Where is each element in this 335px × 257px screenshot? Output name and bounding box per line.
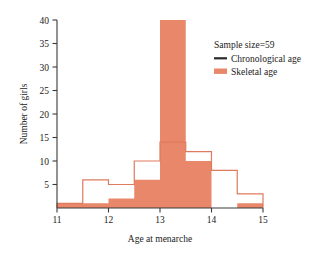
x-tick-label: 13	[155, 215, 165, 225]
histogram-figure: 40 35 30 25 20 15 10 5 11 12 13 14 15 Ag…	[0, 0, 335, 257]
y-tick-label: 30	[40, 63, 50, 73]
chart-canvas: 40 35 30 25 20 15 10 5 11 12 13 14 15 Ag…	[0, 0, 335, 257]
y-tick-label: 5	[44, 180, 49, 190]
chart-legend: Sample size=59 Chronological age Skeleta…	[214, 40, 301, 77]
y-tick-label: 25	[40, 86, 50, 96]
x-axis-ticks	[57, 208, 263, 213]
y-axis-ticks	[53, 20, 58, 185]
y-tick-label: 40	[40, 16, 50, 26]
legend-sample-size: Sample size=59	[214, 40, 275, 50]
x-axis-tick-labels: 11 12 13 14 15	[52, 215, 268, 225]
legend-label-skeletal-age: Skeletal age	[231, 67, 277, 77]
x-tick-label: 14	[207, 215, 217, 225]
y-tick-label: 20	[40, 110, 50, 120]
y-axis-title: Number of girls	[19, 83, 29, 144]
y-tick-label: 15	[40, 133, 50, 143]
x-tick-label: 11	[52, 215, 61, 225]
legend-swatch-chronological-line-icon	[214, 57, 227, 59]
y-tick-label: 35	[40, 39, 50, 49]
y-tick-label: 10	[40, 157, 50, 167]
y-axis-tick-labels: 40 35 30 25 20 15 10 5	[40, 16, 50, 191]
legend-label-chronological-age: Chronological age	[231, 54, 301, 64]
x-axis-title: Age at menarche	[128, 234, 192, 244]
x-tick-label: 12	[104, 215, 114, 225]
legend-swatch-skeletal-bar-icon	[214, 69, 227, 74]
x-tick-label: 15	[258, 215, 268, 225]
